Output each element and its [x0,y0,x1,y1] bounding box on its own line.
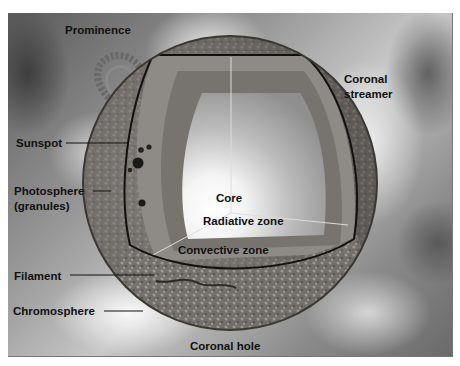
sunspot-small [138,147,144,153]
label-radiative-zone: Radiative zone [203,214,284,228]
label-core: Core [216,191,242,205]
label-photosphere-line2: (granules) [14,199,70,213]
label-sunspot: Sunspot [16,136,62,150]
sunspot-small [128,168,132,172]
sun-structure-diagram: Prominence Coronal streamer Sunspot Phot… [8,13,453,357]
label-coronal-streamer-line2: streamer [344,87,393,101]
sunspot-large [133,158,144,169]
label-photosphere-line1: Photosphere [14,184,84,198]
label-convective-zone: Convective zone [178,243,269,257]
granule-dark-spot [139,200,146,207]
sunspot-small [146,144,151,149]
label-prominence: Prominence [65,23,131,37]
label-filament: Filament [14,269,61,283]
label-coronal-hole: Coronal hole [190,339,260,353]
label-coronal-streamer-line1: Coronal [344,72,387,86]
label-chromosphere: Chromosphere [13,304,95,318]
